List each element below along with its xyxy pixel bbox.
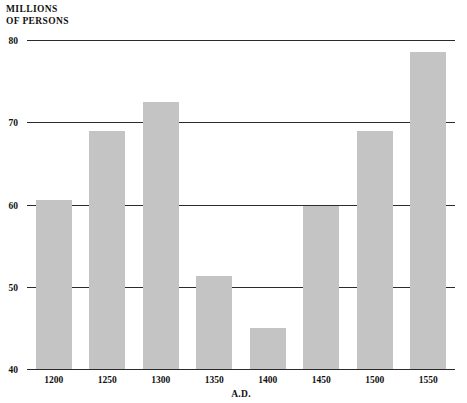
bar [357, 131, 393, 369]
y-axis-tick-label: 80 [9, 36, 19, 46]
bar [196, 276, 232, 369]
y-axis-title-line-1: MILLIONS [6, 4, 58, 14]
y-axis-tick-label: 40 [9, 365, 19, 375]
bar [303, 206, 339, 369]
x-axis-tick-label: 1450 [312, 375, 331, 385]
bar [250, 328, 286, 369]
x-axis-tick-label: 1250 [98, 375, 117, 385]
y-axis-tick-label: 70 [9, 118, 19, 128]
bar-series [27, 40, 455, 369]
plot-area: 4050607080 12001250130013501400145015001… [27, 40, 455, 369]
x-axis-tick-label: 1300 [151, 375, 170, 385]
x-axis-tick-label: 1550 [419, 375, 438, 385]
x-axis-title: A.D. [231, 389, 251, 399]
bar [410, 52, 446, 369]
y-axis-title: MILLIONSOF PERSONS [6, 4, 69, 27]
y-axis-tick-label: 60 [9, 201, 19, 211]
x-axis-tick-label: 1350 [205, 375, 224, 385]
gridline-40: 40 [27, 369, 455, 370]
bar [143, 102, 179, 369]
bar [89, 131, 125, 369]
x-axis-tick-label: 1200 [44, 375, 63, 385]
bar-chart: MILLIONSOF PERSONS 4050607080 1200125013… [0, 0, 467, 403]
bar [36, 200, 72, 369]
y-axis-title-line-2: OF PERSONS [6, 16, 69, 26]
x-axis-tick-label: 1500 [365, 375, 384, 385]
y-axis-tick-label: 50 [9, 283, 19, 293]
x-axis-tick-label: 1400 [258, 375, 277, 385]
